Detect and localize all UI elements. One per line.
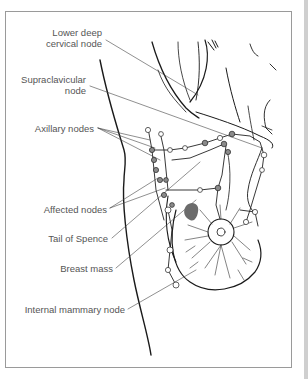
leader-lower-deep-cervical [106,40,198,95]
label-line: Affected nodes [44,204,107,215]
label-line: Axillary nodes [35,123,94,134]
label-internal-mammary-node: Internal mammary node [25,304,125,315]
nipple [217,228,225,236]
label-line: Tail of Spence [48,233,108,244]
label-axillary-nodes: Axillary nodes [35,123,94,134]
label-line: node [21,85,86,96]
label-line: Supraclavicular [21,74,86,85]
label-lower-deep-cervical-node: Lower deep cervical node [46,27,102,49]
neck-line [152,42,199,118]
label-affected-nodes: Affected nodes [44,204,107,215]
breast-lymphatic-illustration [0,0,308,379]
breast-mass-shape [184,203,198,220]
arm-outline [247,148,262,214]
label-tail-of-spence: Tail of Spence [48,233,108,244]
label-breast-mass: Breast mass [60,263,113,274]
label-line: Breast mass [60,263,113,274]
label-line: cervical node [46,38,102,49]
label-line: Internal mammary node [25,304,125,315]
areola [208,219,234,245]
label-line: Lower deep [46,27,102,38]
label-supraclavicular-node: Supraclavicular node [21,74,86,96]
